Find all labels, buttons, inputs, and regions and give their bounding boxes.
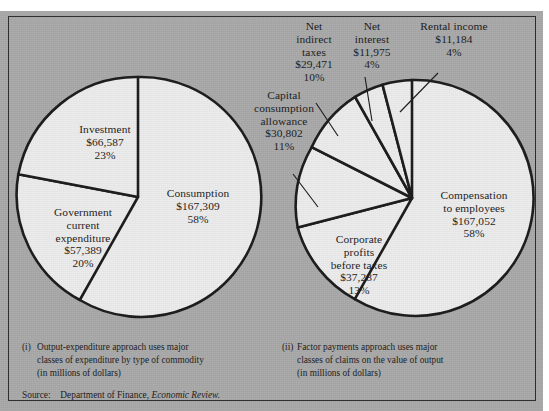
figure-border — [8, 16, 536, 401]
figure-container: Investment $66,587 23% Government curren… — [0, 11, 543, 411]
